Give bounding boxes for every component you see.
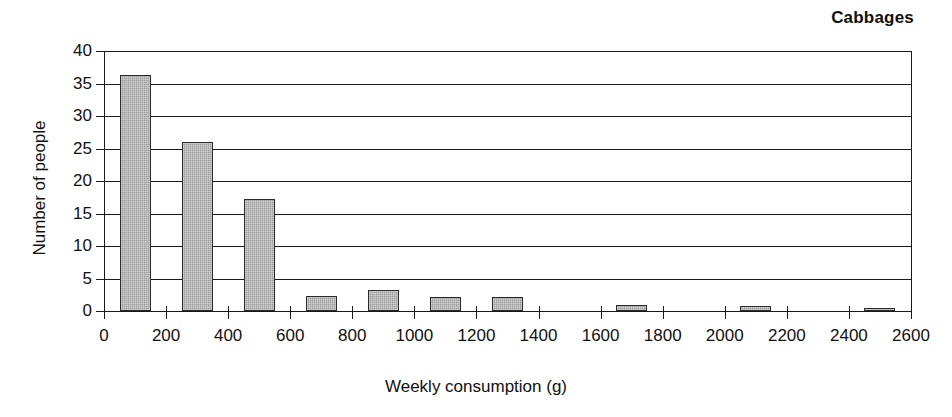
x-axis-tick-label: 0 xyxy=(69,326,139,346)
chart-container: Cabbages 0510152025303540 Number of peop… xyxy=(0,0,952,417)
gridline-y xyxy=(104,311,911,312)
x-axis-tick xyxy=(849,306,850,319)
bar xyxy=(244,199,275,311)
y-axis-tick xyxy=(96,84,105,85)
y-axis-tick xyxy=(96,279,105,280)
x-axis-tick xyxy=(539,306,540,319)
x-axis-tick xyxy=(228,306,229,319)
gridline-y xyxy=(104,51,911,52)
gridline-y xyxy=(104,116,911,117)
x-axis-tick-label: 800 xyxy=(317,326,387,346)
bar xyxy=(182,142,213,311)
chart-title: Cabbages xyxy=(831,8,914,28)
bar xyxy=(616,305,647,312)
bar xyxy=(740,306,771,311)
x-axis-tick-label: 1200 xyxy=(441,326,511,346)
x-axis-tick xyxy=(104,306,105,319)
y-axis-tick xyxy=(96,149,105,150)
bar xyxy=(306,296,337,311)
y-axis-tick-label: 0 xyxy=(6,302,92,319)
gridline-y xyxy=(104,181,911,182)
bar xyxy=(430,297,461,311)
bar xyxy=(368,290,399,311)
x-axis-tick-label: 2200 xyxy=(752,326,822,346)
x-axis-tick-label: 1600 xyxy=(566,326,636,346)
gridline-y xyxy=(104,84,911,85)
x-axis-tick-label: 1000 xyxy=(379,326,449,346)
y-axis-tick xyxy=(96,181,105,182)
y-axis-title: Number of people xyxy=(30,78,50,298)
x-axis-tick xyxy=(290,306,291,319)
plot-area xyxy=(104,51,911,311)
x-axis-tick xyxy=(911,306,912,319)
x-axis-tick xyxy=(787,306,788,319)
x-axis-tick-label: 2000 xyxy=(690,326,760,346)
x-axis-tick-label: 200 xyxy=(131,326,201,346)
x-axis-tick xyxy=(352,306,353,319)
y-axis-tick-label: 40 xyxy=(6,42,92,59)
x-axis-tick xyxy=(663,306,664,319)
bar xyxy=(492,297,523,311)
x-axis-tick-label: 2600 xyxy=(876,326,946,346)
x-axis-tick xyxy=(414,306,415,319)
y-axis-tick xyxy=(96,214,105,215)
x-axis-tick xyxy=(601,306,602,319)
x-axis-tick-label: 1400 xyxy=(504,326,574,346)
bar xyxy=(864,308,895,311)
bar xyxy=(120,75,151,311)
y-axis-tick xyxy=(96,246,105,247)
x-axis-tick-label: 2400 xyxy=(814,326,884,346)
x-axis-tick xyxy=(476,306,477,319)
x-axis-tick-label: 1800 xyxy=(628,326,698,346)
gridline-y xyxy=(104,214,911,215)
x-axis-tick-label: 400 xyxy=(193,326,263,346)
gridline-y xyxy=(104,246,911,247)
x-axis-tick xyxy=(725,306,726,319)
plot-right-border xyxy=(911,51,912,312)
x-axis-title: Weekly consumption (g) xyxy=(0,377,952,397)
x-axis-tick-label: 600 xyxy=(255,326,325,346)
gridline-y xyxy=(104,279,911,280)
x-axis-tick xyxy=(166,306,167,319)
y-axis-tick xyxy=(96,116,105,117)
gridline-y xyxy=(104,149,911,150)
y-axis-tick xyxy=(96,51,105,52)
